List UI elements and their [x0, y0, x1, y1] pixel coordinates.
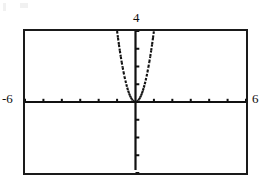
x-min-label: -6 [2, 92, 13, 105]
graph-viewport[interactable] [23, 29, 248, 175]
graph-plot-area [25, 31, 246, 173]
scan-artifact [3, 3, 6, 11]
y-max-label: 4 [133, 11, 140, 24]
x-max-label: 6 [252, 92, 259, 105]
scan-artifact [20, 3, 28, 8]
graph-render-surface [25, 31, 246, 173]
calculator-screenshot: 4 -6 6 [0, 0, 260, 183]
